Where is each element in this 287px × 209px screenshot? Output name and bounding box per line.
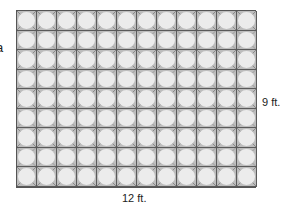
- floor-tile: [117, 70, 137, 90]
- floor-tile: [157, 89, 177, 109]
- floor-tile: [237, 148, 257, 168]
- floor-tile: [177, 31, 197, 51]
- floor-tile: [37, 128, 57, 148]
- floor-tile: [117, 50, 137, 70]
- floor-tile: [157, 109, 177, 129]
- floor-tile: [137, 50, 157, 70]
- floor-tile: [17, 148, 37, 168]
- floor-tile: [237, 31, 257, 51]
- floor-tile: [197, 89, 217, 109]
- floor-tile: [77, 128, 97, 148]
- floor-tile: [197, 31, 217, 51]
- floor-tile: [137, 11, 157, 31]
- floor-tile: [17, 31, 37, 51]
- floor-tile: [17, 50, 37, 70]
- floor-tile: [117, 89, 137, 109]
- floor-tile: [177, 11, 197, 31]
- floor-tile: [97, 148, 117, 168]
- floor-tile: [217, 31, 237, 51]
- floor-tile: [177, 50, 197, 70]
- floor-tile: [177, 167, 197, 187]
- floor-tile: [197, 50, 217, 70]
- floor-tile: [37, 70, 57, 90]
- floor-tile: [137, 167, 157, 187]
- floor-tile: [97, 11, 117, 31]
- floor-tile: [237, 11, 257, 31]
- floor-tile: [137, 109, 157, 129]
- floor-tile: [117, 11, 137, 31]
- floor-tile: [217, 128, 237, 148]
- floor-tile: [37, 31, 57, 51]
- floor-tile: [37, 148, 57, 168]
- floor-tile: [217, 11, 237, 31]
- floor-tile: [17, 128, 37, 148]
- floor-tile: [197, 70, 217, 90]
- floor-tile: [97, 70, 117, 90]
- floor-tile: [77, 11, 97, 31]
- floor-tile: [177, 109, 197, 129]
- floor-tile: [37, 89, 57, 109]
- floor-tile: [77, 167, 97, 187]
- floor-tile: [157, 167, 177, 187]
- floor-tile: [237, 89, 257, 109]
- floor-tile: [97, 31, 117, 51]
- floor-tile: [197, 128, 217, 148]
- floor-tile: [237, 70, 257, 90]
- floor-tile: [137, 148, 157, 168]
- floor-tile: [57, 11, 77, 31]
- floor-tile: [17, 109, 37, 129]
- floor-tile: [217, 89, 237, 109]
- floor-tile: [217, 148, 237, 168]
- floor-tile: [157, 128, 177, 148]
- floor-tile: [77, 148, 97, 168]
- floor-tile: [197, 167, 217, 187]
- floor-tile: [157, 50, 177, 70]
- floor-tile: [57, 128, 77, 148]
- floor-tile: [157, 31, 177, 51]
- floor-tile: [97, 167, 117, 187]
- floor-tile: [137, 128, 157, 148]
- floor-tile: [57, 148, 77, 168]
- floor-tile: [177, 128, 197, 148]
- width-label: 12 ft.: [122, 192, 146, 204]
- height-label: 9 ft.: [262, 96, 280, 108]
- floor-tile: [117, 167, 137, 187]
- floor-tile: [97, 109, 117, 129]
- floor-tile: [197, 11, 217, 31]
- floor-tile: [117, 128, 137, 148]
- floor-tile: [177, 70, 197, 90]
- floor-tile: [77, 109, 97, 129]
- floor-tile: [177, 148, 197, 168]
- floor-tile: [17, 167, 37, 187]
- floor-tile: [17, 70, 37, 90]
- floor-tile: [117, 31, 137, 51]
- floor-tile: [97, 50, 117, 70]
- floor-tile: [157, 148, 177, 168]
- floor-tile: [57, 167, 77, 187]
- floor-tile: [97, 89, 117, 109]
- floor-tile: [137, 31, 157, 51]
- floor-tile: [57, 31, 77, 51]
- floor-tile: [237, 50, 257, 70]
- floor-tile: [217, 50, 237, 70]
- floor-tile: [57, 50, 77, 70]
- floor-tile: [217, 109, 237, 129]
- floor-tile: [197, 148, 217, 168]
- floor-tile: [237, 167, 257, 187]
- floor-tile: [97, 128, 117, 148]
- floor-tile: [217, 167, 237, 187]
- floor-tile: [237, 128, 257, 148]
- floor-tile: [137, 89, 157, 109]
- floor-tile: [37, 109, 57, 129]
- floor-tile: [77, 31, 97, 51]
- tile-floor-grid: [16, 10, 256, 188]
- floor-tile: [237, 109, 257, 129]
- floor-tile: [77, 50, 97, 70]
- floor-tile: [77, 70, 97, 90]
- floor-tile: [37, 11, 57, 31]
- cropped-text-fragment: a: [0, 40, 3, 55]
- floor-tile: [57, 109, 77, 129]
- floor-tile: [57, 70, 77, 90]
- floor-tile: [157, 11, 177, 31]
- floor-tile: [117, 148, 137, 168]
